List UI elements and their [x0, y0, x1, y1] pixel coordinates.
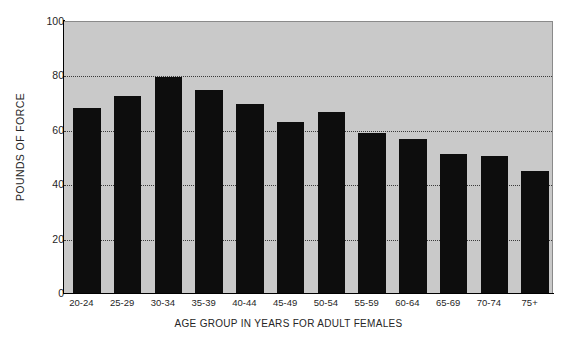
bar-60-64 [399, 139, 427, 293]
x-axis-title-label: AGE GROUP IN YEARS FOR ADULT FEMALES [175, 318, 403, 329]
bar-30-34 [155, 77, 183, 293]
bar-35-39 [195, 90, 223, 293]
y-tick-label-20: 20 [38, 234, 64, 244]
bar-chart-figure: POUNDS OF FORCE 020406080100 20-2425-293… [0, 0, 577, 350]
x-tick-label-70-74: 70-74 [469, 297, 510, 309]
x-tick-label-45-49: 45-49 [265, 297, 306, 309]
x-tick-label-40-44: 40-44 [224, 297, 265, 309]
y-axis-tick-group: 020406080100 [34, 0, 64, 350]
x-tick-label-20-24: 20-24 [61, 297, 102, 309]
x-tick-label-60-64: 60-64 [387, 297, 428, 309]
bar-40-44 [236, 104, 264, 293]
x-tick-label-30-34: 30-34 [143, 297, 184, 309]
x-tick-label-35-39: 35-39 [183, 297, 224, 309]
bar-50-54 [318, 112, 346, 293]
bar-55-59 [358, 133, 386, 293]
x-tick-label-25-29: 25-29 [102, 297, 143, 309]
x-tick-label-55-59: 55-59 [346, 297, 387, 309]
y-axis-title: POUNDS OF FORCE [6, 0, 34, 293]
gridline-80 [64, 76, 552, 77]
bar-75+ [521, 171, 549, 293]
plot-area [64, 21, 553, 293]
bar-25-29 [114, 96, 142, 293]
x-axis-tick-group: 20-2425-2930-3435-3940-4445-4950-5455-59… [64, 297, 553, 313]
bar-20-24 [73, 108, 101, 293]
x-tick-label-50-54: 50-54 [306, 297, 347, 309]
y-tick-label-100: 100 [38, 16, 64, 26]
y-axis-title-label: POUNDS OF FORCE [14, 92, 26, 200]
y-tick-label-60: 60 [38, 125, 64, 135]
x-tick-label-65-69: 65-69 [428, 297, 469, 309]
bar-65-69 [440, 154, 468, 293]
x-tick-label-75+: 75+ [509, 297, 550, 309]
bar-45-49 [277, 122, 305, 293]
x-axis-title: AGE GROUP IN YEARS FOR ADULT FEMALES [0, 318, 577, 329]
y-tick-label-80: 80 [38, 70, 64, 80]
y-tick-label-40: 40 [38, 179, 64, 189]
bar-70-74 [481, 156, 509, 293]
